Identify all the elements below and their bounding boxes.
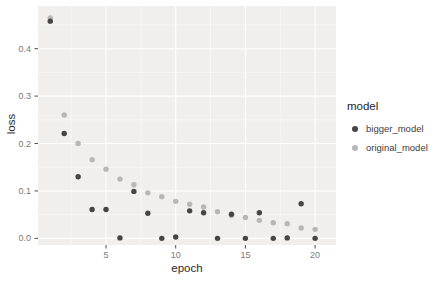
x-tick-label: 15 xyxy=(240,250,250,260)
data-point-original_model xyxy=(187,202,192,207)
data-point-bigger_model xyxy=(89,207,94,212)
bigger-model-swatch-icon xyxy=(352,126,358,132)
y-tick-label: 0.3 xyxy=(18,91,31,101)
data-point-bigger_model xyxy=(103,207,108,212)
data-point-bigger_model xyxy=(145,211,150,216)
data-point-bigger_model xyxy=(271,236,276,241)
data-point-bigger_model xyxy=(285,235,290,240)
y-tick-label: 0.4 xyxy=(18,44,31,54)
data-point-bigger_model xyxy=(229,211,234,216)
y-axis-title: loss xyxy=(5,74,17,174)
data-point-original_model xyxy=(257,218,262,223)
plot-panel xyxy=(38,6,336,245)
data-point-bigger_model xyxy=(215,236,220,241)
x-tick-label: 20 xyxy=(310,250,320,260)
data-point-original_model xyxy=(271,220,276,225)
x-axis-title: epoch xyxy=(137,262,237,274)
data-point-original_model xyxy=(159,194,164,199)
data-point-original_model xyxy=(62,112,67,117)
data-point-original_model xyxy=(298,225,303,230)
legend: model bigger_model original_model xyxy=(347,100,428,157)
legend-item-original-model: original_model xyxy=(347,138,428,157)
data-point-original_model xyxy=(173,199,178,204)
data-point-bigger_model xyxy=(159,236,164,241)
x-tick-label: 5 xyxy=(104,250,109,260)
x-tick-label: 10 xyxy=(171,250,181,260)
legend-item-bigger-model: bigger_model xyxy=(347,119,428,138)
data-point-original_model xyxy=(285,221,290,226)
data-point-original_model xyxy=(75,141,80,146)
loss-vs-epoch-scatter-figure: 51015200.00.10.20.30.4 loss epoch model … xyxy=(0,0,433,287)
legend-label-original-model: original_model xyxy=(366,142,428,153)
data-point-bigger_model xyxy=(173,234,178,239)
legend-title: model xyxy=(347,100,428,112)
data-point-bigger_model xyxy=(62,131,67,136)
data-point-original_model xyxy=(215,209,220,214)
data-point-bigger_model xyxy=(298,201,303,206)
data-point-bigger_model xyxy=(187,208,192,213)
data-point-bigger_model xyxy=(131,189,136,194)
data-point-bigger_model xyxy=(75,174,80,179)
y-tick-label: 0.0 xyxy=(18,233,31,243)
data-point-bigger_model xyxy=(117,235,122,240)
data-point-original_model xyxy=(131,182,136,187)
data-point-original_model xyxy=(145,190,150,195)
data-point-original_model xyxy=(201,204,206,209)
y-tick-label: 0.1 xyxy=(18,186,31,196)
data-point-original_model xyxy=(312,227,317,232)
data-point-original_model xyxy=(103,166,108,171)
legend-label-bigger-model: bigger_model xyxy=(366,123,424,134)
original-model-swatch-icon xyxy=(352,145,358,151)
y-tick-label: 0.2 xyxy=(18,139,31,149)
data-point-bigger_model xyxy=(312,236,317,241)
data-point-original_model xyxy=(117,176,122,181)
data-point-bigger_model xyxy=(257,210,262,215)
data-point-original_model xyxy=(89,157,94,162)
data-point-bigger_model xyxy=(201,210,206,215)
data-point-bigger_model xyxy=(48,18,53,23)
data-point-bigger_model xyxy=(243,236,248,241)
data-point-original_model xyxy=(243,215,248,220)
